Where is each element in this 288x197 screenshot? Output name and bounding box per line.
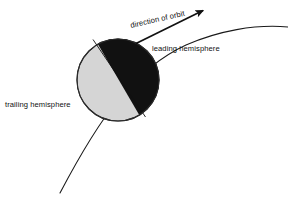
label-direction-of-orbit: direction of orbit (129, 9, 186, 30)
orbit-hemisphere-diagram: direction of orbit leading hemisphere tr… (0, 0, 288, 197)
label-leading-hemisphere: leading hemisphere (152, 44, 220, 53)
diagram-canvas: direction of orbit leading hemisphere tr… (0, 0, 288, 197)
label-trailing-hemisphere: trailing hemisphere (5, 100, 71, 109)
